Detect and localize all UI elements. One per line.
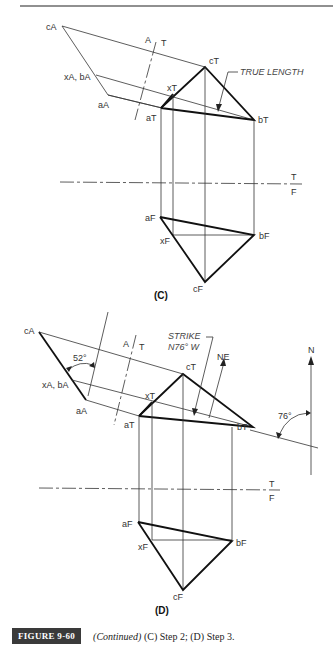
bearing-angle-label: 76° (278, 411, 292, 421)
descriptive-geometry-diagram: cA xA, bA aA A T cT xT aT bT TRUE LENGTH… (0, 0, 333, 650)
label-fold-A-c: A (145, 35, 151, 45)
label-bF-c: bF (259, 231, 270, 241)
dip-angle-label: 52° (73, 353, 87, 363)
label-cF-d: cF (173, 592, 184, 602)
label-bF-d: bF (236, 538, 247, 548)
label-cA-d: cA (24, 326, 35, 336)
label-fold-T-c: T (161, 38, 167, 48)
label-fold-F-tf-c: F (291, 187, 297, 197)
label-aT-d: aT (124, 420, 135, 430)
label-cA-c: cA (46, 22, 57, 32)
caption-rest: (C) Step 2; (D) Step 3. (141, 631, 234, 642)
strike-label-line1: STRIKE (168, 331, 202, 341)
label-fold-T-tf-d: T (269, 479, 275, 489)
label-bT-d: bT (237, 422, 248, 432)
true-length-annotation: TRUE LENGTH (240, 67, 304, 77)
panel-c-label: (C) (154, 290, 168, 301)
label-xT-d: xT (145, 391, 156, 401)
label-aA-d: aA (76, 406, 87, 416)
label-xF-c: xF (160, 236, 171, 246)
label-aT-c: aT (146, 113, 157, 123)
label-aA-c: aA (98, 100, 109, 110)
label-bT-c: bT (258, 115, 269, 125)
figure-badge: FIGURE 9-60 (12, 628, 81, 644)
label-xA-bA-c: xA, bA (64, 72, 91, 82)
label-xA-bA-d: xA, bA (42, 380, 69, 390)
north-label: N (308, 345, 315, 355)
label-fold-A-d: A (123, 339, 129, 349)
label-cT-d: cT (186, 362, 197, 372)
strike-label-line2: N76° W (168, 342, 201, 352)
label-xF-d: xF (138, 542, 149, 552)
label-xT-c: xT (167, 83, 178, 93)
label-fold-F-tf-d: F (269, 493, 275, 503)
label-aF-d: aF (122, 519, 133, 529)
panel-d-label: (D) (155, 605, 169, 616)
label-aF-c: aF (145, 213, 156, 223)
label-cF-c: cF (193, 284, 204, 294)
panel-c (60, 26, 302, 282)
label-fold-T-tf-c: T (291, 172, 297, 182)
label-cT-c: cT (209, 56, 220, 66)
caption-text: (Continued) (C) Step 2; (D) Step 3. (93, 631, 234, 642)
figure-caption: FIGURE 9-60 (Continued) (C) Step 2; (D) … (12, 628, 234, 644)
ne-label: NE (217, 352, 230, 362)
caption-italic: (Continued) (93, 631, 141, 642)
label-fold-T-d: T (139, 342, 145, 352)
